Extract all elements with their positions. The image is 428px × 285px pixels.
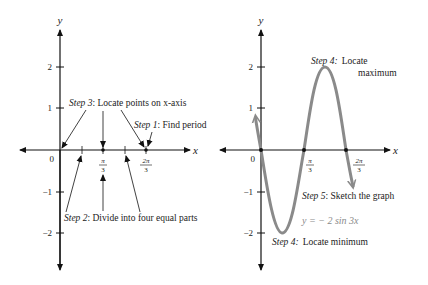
left-x-axis-label: x — [192, 144, 198, 156]
left-xtick-2pi-over-3: 2π 3 — [140, 157, 152, 174]
left-xtick-pi-over-3: π 3 — [99, 157, 107, 174]
step3-annotation: Step 3: Locate points on x-axis — [69, 98, 187, 108]
left-graph: y x 0 2 1 −1 −2 π 3 2π 3 Step 3: Locate … — [20, 14, 207, 270]
right-x-axis-label: x — [392, 144, 398, 156]
svg-text:π: π — [308, 157, 312, 165]
left-ytick-neg1: −1 — [42, 187, 52, 197]
right-xtick-pi-over-3: π 3 — [306, 157, 314, 174]
svg-text:3: 3 — [144, 166, 148, 174]
left-ytick-neg2: −2 — [42, 228, 52, 238]
right-ytick-neg1: −1 — [243, 187, 253, 197]
svg-text:2π: 2π — [355, 157, 363, 165]
right-ytick-2: 2 — [249, 62, 254, 72]
right-origin-label: 0 — [251, 154, 256, 164]
svg-text:π: π — [101, 157, 105, 165]
diagram-canvas: y x 0 2 1 −1 −2 π 3 2π 3 Step 3: Locate … — [0, 0, 428, 285]
right-xtick-2pi-over-3: 2π 3 — [353, 157, 365, 174]
left-ytick-2: 2 — [48, 62, 53, 72]
step2-annotation: Step 2: Divide into four equal parts — [64, 213, 198, 223]
right-y-axis-label: y — [258, 14, 264, 26]
left-y-axis-label: y — [57, 14, 63, 26]
left-origin-label: 0 — [50, 154, 55, 164]
step4-min-annotation: Step 4:Locate minimum — [272, 237, 368, 247]
svg-text:3: 3 — [357, 166, 361, 174]
svg-text:3: 3 — [308, 166, 312, 174]
step5-annotation: Step 5: Sketch the graph — [302, 191, 395, 201]
svg-text:2π: 2π — [142, 157, 150, 165]
step4-max-annotation: Step 4:Locate — [311, 56, 368, 66]
equation-label: y = − 2 sin 3x — [301, 215, 359, 226]
step4-max-annotation-line2: maximum — [358, 68, 397, 78]
right-ytick-1: 1 — [249, 103, 254, 113]
right-ytick-neg2: −2 — [243, 228, 253, 238]
left-ytick-1: 1 — [48, 103, 53, 113]
svg-text:3: 3 — [101, 166, 105, 174]
right-graph: y x 0 2 1 −1 −2 π 3 2π 3 Step 4:Locate m… — [220, 14, 398, 270]
step1-annotation: Step 1: Find period — [134, 120, 207, 130]
